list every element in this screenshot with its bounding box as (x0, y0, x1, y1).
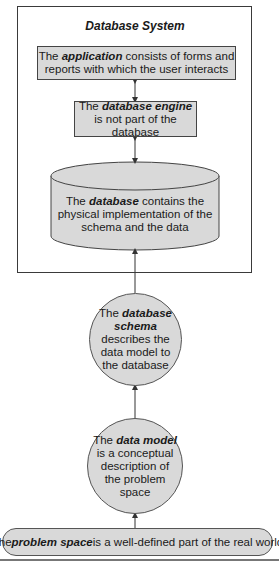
database-keyword: database (89, 195, 139, 207)
problem-prefix: The (0, 536, 12, 548)
engine-suffix: is not part of the database (94, 113, 176, 138)
database-prefix: The (66, 195, 89, 207)
application-node: The application consists of forms and re… (37, 46, 236, 80)
problem-suffix: is a well-defined part of the real world (93, 536, 279, 548)
engine-prefix: The (79, 100, 102, 112)
database-engine-node: The database engine is not part of the d… (74, 101, 197, 137)
model-keyword: data model (116, 434, 177, 446)
application-prefix: The (39, 50, 62, 62)
problem-keyword: problem space (12, 536, 93, 548)
engine-keyword: database engine (102, 100, 192, 112)
schema-suffix: describes the data model to the database (101, 333, 171, 371)
application-keyword: application (62, 50, 123, 62)
database-node-text: The database contains the physical imple… (55, 195, 215, 234)
schema-prefix: The (99, 307, 122, 319)
model-suffix: is a conceptual description of the probl… (97, 447, 174, 498)
problem-space-node: The problem space is a well-defined part… (2, 528, 273, 556)
database-schema-node: The database schema describes the data m… (89, 293, 182, 386)
schema-keyword: database schema (114, 307, 172, 332)
model-prefix: The (93, 434, 116, 446)
data-model-node: The data model is a conceptual descripti… (87, 418, 183, 514)
bottom-divider (0, 559, 279, 561)
database-system-title: Database System (17, 19, 253, 33)
